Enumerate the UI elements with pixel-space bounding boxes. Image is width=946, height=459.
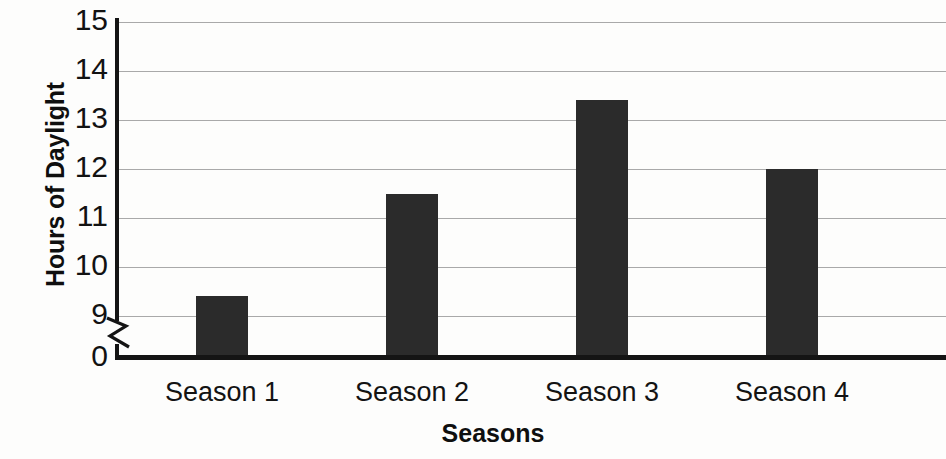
x-axis-tick-label: Season 1: [127, 378, 317, 406]
x-axis-tick-label: Season 2: [317, 378, 507, 406]
bar-chart: Hours of Daylight 15141312111090 Season …: [0, 0, 946, 459]
gridline: [118, 22, 946, 23]
y-axis-tick-label: 13: [36, 103, 108, 133]
y-axis-line: [115, 18, 119, 321]
x-axis-tick-label: Season 3: [507, 378, 697, 406]
bar: [766, 169, 818, 358]
x-axis-title: Seasons: [118, 419, 868, 448]
y-axis-tick-labels: 15141312111090: [30, 0, 108, 380]
axis-break-icon: [104, 316, 136, 350]
y-axis-tick-label: 11: [36, 201, 108, 231]
x-axis-tick-label: Season 4: [697, 378, 887, 406]
y-axis-tick-label: 0: [36, 341, 108, 371]
x-axis-line: [115, 355, 946, 360]
y-axis-tick-label: 9: [36, 299, 108, 329]
y-axis-tick-label: 15: [36, 5, 108, 35]
gridline: [118, 218, 946, 219]
y-axis-tick-label: 10: [36, 250, 108, 280]
bar: [386, 194, 438, 359]
x-axis-tick-labels: Season 1Season 2Season 3Season 4: [118, 378, 946, 412]
bar: [576, 100, 628, 358]
y-axis-tick-label: 14: [36, 54, 108, 84]
y-axis-tick-label: 12: [36, 152, 108, 182]
gridline: [118, 71, 946, 72]
bar: [196, 296, 248, 358]
plot-area: [118, 0, 946, 362]
gridline: [118, 120, 946, 121]
gridline: [118, 267, 946, 268]
gridline: [118, 169, 946, 170]
